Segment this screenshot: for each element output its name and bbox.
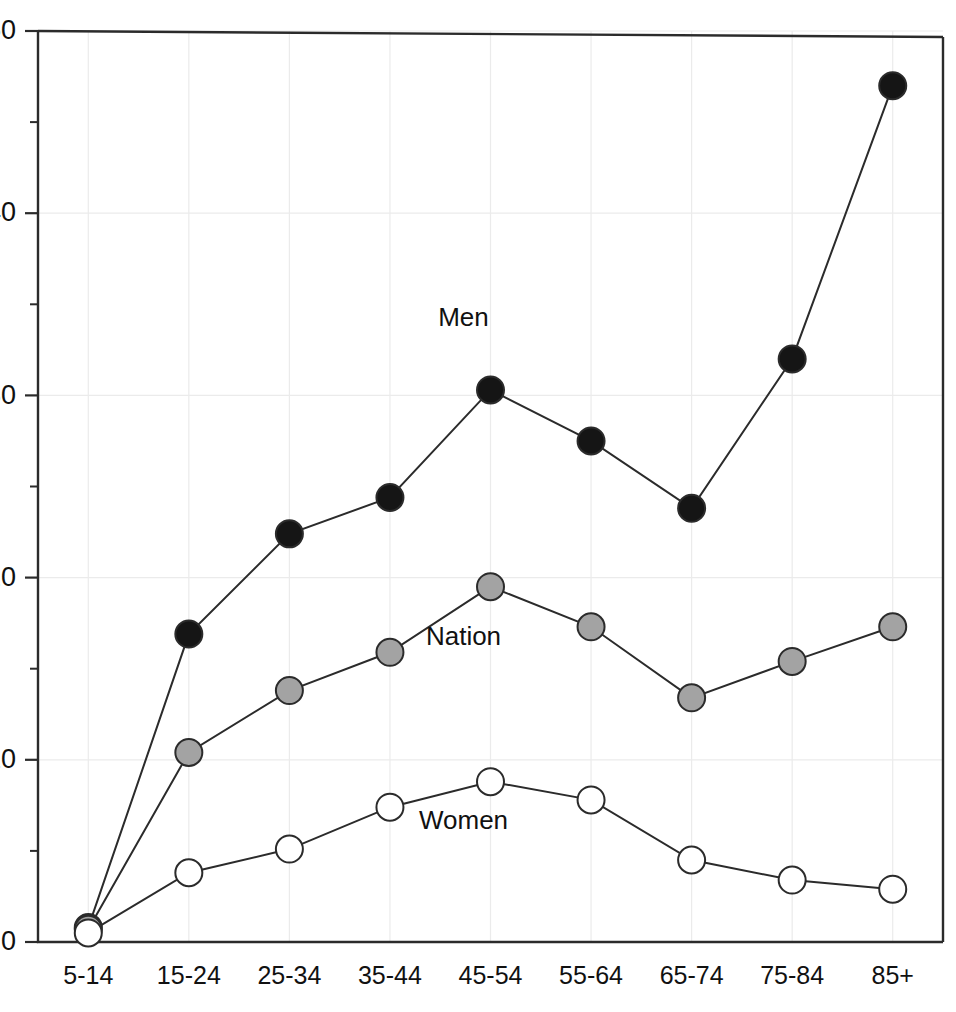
data-point-women-25-34 [276, 836, 303, 863]
data-point-men-55-64 [578, 427, 605, 454]
x-tick-label: 85+ [872, 961, 914, 989]
series-label-men: Men [438, 302, 489, 332]
x-tick-label: 65-74 [660, 961, 724, 989]
data-point-women-5-14 [75, 919, 102, 946]
y-tick-label: 30 [0, 380, 16, 410]
data-point-men-75-84 [779, 345, 806, 372]
x-tick-label: 35-44 [358, 961, 422, 989]
series-label-women: Women [419, 805, 508, 835]
data-point-men-45-54 [477, 376, 504, 403]
data-point-nation-25-34 [276, 677, 303, 704]
data-point-nation-65-74 [678, 684, 705, 711]
line-chart: 01020304050 5-1415-2425-3435-4445-5455-6… [0, 0, 956, 1012]
y-tick-label: 0 [1, 926, 16, 956]
data-point-nation-15-24 [175, 739, 202, 766]
data-point-women-35-44 [376, 794, 403, 821]
data-point-nation-45-54 [477, 573, 504, 600]
data-point-women-85+ [879, 876, 906, 903]
data-point-men-15-24 [175, 621, 202, 648]
y-tick-label: 40 [0, 197, 16, 227]
data-point-nation-35-44 [376, 639, 403, 666]
y-axis-tick-labels: 01020304050 [0, 15, 16, 956]
x-tick-label: 5-14 [63, 961, 113, 989]
x-tick-label: 75-84 [760, 961, 824, 989]
x-tick-label: 15-24 [157, 961, 221, 989]
data-point-men-35-44 [376, 484, 403, 511]
data-point-men-65-74 [678, 495, 705, 522]
x-tick-label: 45-54 [459, 961, 523, 989]
data-point-women-45-54 [477, 768, 504, 795]
y-axis-ticks [25, 31, 38, 942]
y-tick-label: 50 [0, 15, 16, 45]
chart-container: 01020304050 5-1415-2425-3435-4445-5455-6… [0, 0, 956, 1012]
x-tick-label: 25-34 [257, 961, 321, 989]
data-point-nation-85+ [879, 613, 906, 640]
y-tick-label: 10 [0, 744, 16, 774]
data-point-women-55-64 [578, 786, 605, 813]
data-point-men-25-34 [276, 520, 303, 547]
y-tick-label: 20 [0, 562, 16, 592]
data-point-nation-75-84 [779, 648, 806, 675]
data-point-nation-55-64 [578, 613, 605, 640]
data-point-women-15-24 [175, 859, 202, 886]
x-tick-label: 55-64 [559, 961, 623, 989]
data-point-women-65-74 [678, 847, 705, 874]
series-label-nation: Nation [426, 621, 501, 651]
data-point-women-75-84 [779, 867, 806, 894]
x-axis-tick-labels: 5-1415-2425-3435-4445-5455-6465-7475-848… [63, 961, 914, 989]
data-point-men-85+ [879, 72, 906, 99]
